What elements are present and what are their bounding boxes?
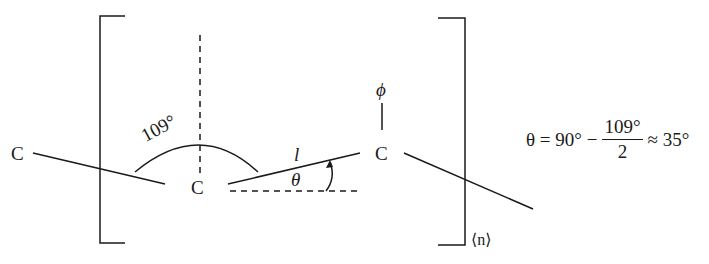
formula-denominator: 2 <box>618 140 628 163</box>
atom-c-right: C <box>375 144 388 163</box>
formula-rhs: ≈ 35° <box>648 129 690 151</box>
bond-length-label: l <box>294 145 299 164</box>
substituent-phi: ϕ <box>376 80 386 99</box>
bond-angle-arc <box>135 145 258 172</box>
repeat-unit-label: ⟨n⟩ <box>471 232 491 248</box>
theta-label: θ <box>291 170 300 189</box>
atom-c-left: C <box>11 144 24 163</box>
atom-c-center: C <box>191 178 204 197</box>
left-bond <box>33 153 165 184</box>
formula-fraction: 109° 2 <box>602 116 642 163</box>
formula-numerator: 109° <box>602 116 642 140</box>
formula-lhs: θ = 90° − <box>526 129 597 151</box>
theta-formula: θ = 90° − 109° 2 ≈ 35° <box>526 116 689 163</box>
left-bracket <box>100 16 125 243</box>
outgoing-bond <box>404 153 533 209</box>
right-bracket <box>438 18 465 245</box>
